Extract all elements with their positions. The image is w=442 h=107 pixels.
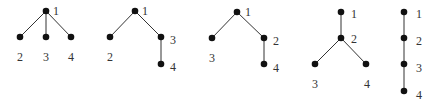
node-label: 4	[416, 88, 422, 102]
node-1	[401, 9, 408, 16]
edge-2-3	[315, 38, 341, 64]
tree-2: 1234	[107, 4, 176, 74]
node-1	[43, 8, 50, 15]
node-label: 3	[209, 51, 215, 65]
node-label: 3	[170, 33, 176, 47]
node-2	[401, 35, 408, 42]
node-label: 4	[68, 50, 74, 64]
node-label: 2	[17, 50, 23, 64]
node-label: 1	[245, 5, 251, 19]
tree-4: 1234	[312, 7, 370, 91]
node-2	[17, 34, 24, 41]
node-label: 3	[312, 77, 318, 91]
node-label: 3	[43, 50, 49, 64]
node-label: 2	[351, 32, 357, 46]
node-1	[234, 9, 241, 16]
node-label: 2	[273, 34, 279, 48]
node-label: 3	[416, 61, 422, 75]
edge-1-2	[110, 11, 135, 37]
node-label: 2	[416, 34, 422, 48]
node-1	[338, 9, 345, 16]
node-label: 4	[170, 60, 176, 74]
node-4	[401, 88, 408, 95]
node-4	[261, 61, 268, 68]
node-2	[261, 35, 268, 42]
node-3	[401, 61, 408, 68]
trees-diagram: 1234 1234 1324 1234 1234	[0, 0, 442, 107]
node-1	[132, 8, 139, 15]
node-3	[209, 35, 216, 42]
node-label: 1	[416, 7, 422, 21]
edge-1-2	[20, 11, 46, 37]
node-2	[107, 34, 114, 41]
node-label: 1	[142, 4, 148, 18]
node-label: 1	[53, 4, 59, 18]
node-label: 2	[107, 50, 113, 64]
edge-1-3	[212, 12, 237, 38]
node-label: 4	[364, 77, 370, 91]
tree-5: 1234	[401, 7, 422, 102]
node-4	[158, 61, 165, 68]
node-3	[312, 61, 319, 68]
node-label: 4	[273, 61, 279, 75]
node-4	[68, 34, 75, 41]
edge-1-3	[135, 11, 161, 37]
tree-1: 1234	[17, 4, 75, 64]
node-4	[363, 61, 370, 68]
node-3	[43, 34, 50, 41]
tree-3: 1324	[209, 5, 279, 75]
node-2	[338, 35, 345, 42]
node-label: 1	[351, 7, 357, 21]
node-3	[158, 34, 165, 41]
